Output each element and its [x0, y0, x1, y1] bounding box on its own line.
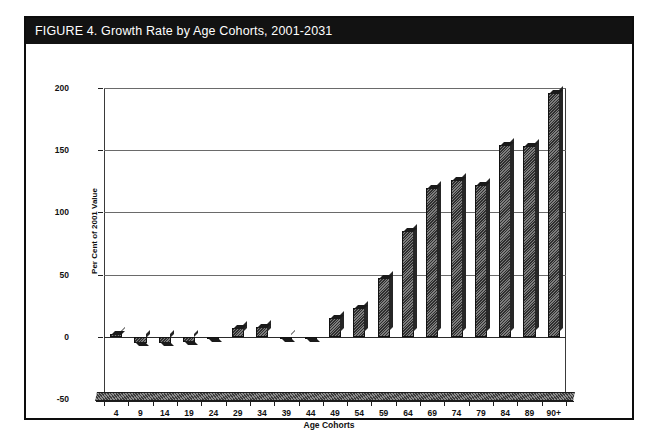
bar-14[interactable]	[159, 337, 171, 343]
bar-69[interactable]	[426, 188, 438, 337]
figure-screenshot: FIGURE 4. Growth Rate by Age Cohorts, 20…	[0, 0, 658, 443]
y-tick-label: 100	[39, 207, 69, 217]
y-tick-label: 0	[39, 332, 69, 342]
x-tick-mark	[493, 401, 494, 406]
x-tick-label: 59	[379, 408, 388, 418]
y-tick-label: 150	[39, 145, 69, 155]
y-tick-mark	[98, 150, 103, 151]
x-axis-title: Age Cohorts	[26, 420, 632, 430]
bar-9[interactable]	[134, 337, 146, 343]
figure-frame: FIGURE 4. Growth Rate by Age Cohorts, 20…	[24, 16, 634, 420]
x-tick-mark	[226, 401, 227, 406]
plot-left-axis	[104, 88, 105, 399]
x-tick-label: 4	[114, 408, 119, 418]
y-axis-title: Per Cent of 2001 Value	[90, 188, 99, 274]
x-tick-label: 54	[355, 408, 364, 418]
x-tick-label: 14	[160, 408, 169, 418]
plot-right-axis	[565, 88, 566, 399]
y-tick-mark	[98, 275, 103, 276]
x-tick-label: 19	[184, 408, 193, 418]
x-tick-mark	[201, 401, 202, 406]
bar-29[interactable]	[232, 328, 244, 337]
zero-baseline	[104, 337, 566, 338]
bar-84[interactable]	[499, 145, 511, 337]
bar-19[interactable]	[183, 337, 195, 342]
x-tick-mark	[566, 401, 567, 406]
bar-4[interactable]	[110, 334, 122, 336]
x-tick-label: 79	[476, 408, 485, 418]
x-tick-mark	[274, 401, 275, 406]
x-tick-mark	[420, 401, 421, 406]
x-tick-mark	[396, 401, 397, 406]
x-tick-mark	[153, 401, 154, 406]
x-tick-mark	[444, 401, 445, 406]
bar-44[interactable]	[305, 337, 317, 339]
x-tick-mark	[371, 401, 372, 406]
figure-title-bar: FIGURE 4. Growth Rate by Age Cohorts, 20…	[26, 18, 632, 44]
x-tick-label: 9	[138, 408, 143, 418]
bar-49[interactable]	[329, 318, 341, 337]
gridline-150	[104, 150, 566, 151]
y-tick-label: 200	[39, 83, 69, 93]
x-tick-label: 84	[500, 408, 509, 418]
gridline-50	[104, 275, 566, 276]
x-tick-mark	[347, 401, 348, 406]
x-tick-mark	[128, 401, 129, 406]
bar-59[interactable]	[378, 278, 390, 336]
x-tick-label: 44	[306, 408, 315, 418]
y-tick-mark	[98, 212, 103, 213]
x-tick-label: 90+	[547, 408, 561, 418]
x-tick-label: 74	[452, 408, 461, 418]
x-axis-line	[96, 401, 574, 402]
x-tick-label: 64	[403, 408, 412, 418]
x-tick-mark	[299, 401, 300, 406]
x-tick-label: 49	[330, 408, 339, 418]
figure-title: FIGURE 4. Growth Rate by Age Cohorts, 20…	[35, 24, 332, 38]
y-tick-mark	[98, 88, 103, 89]
bar-64[interactable]	[402, 231, 414, 337]
x-tick-mark	[177, 401, 178, 406]
bar-39[interactable]	[280, 337, 292, 339]
x-tick-mark	[250, 401, 251, 406]
bar-90+[interactable]	[548, 93, 560, 337]
bar-24[interactable]	[207, 337, 219, 339]
x-tick-label: 69	[428, 408, 437, 418]
bar-79[interactable]	[475, 185, 487, 337]
bar-74[interactable]	[451, 180, 463, 337]
plot-area: Per Cent of 2001 Value -50050100150200 4…	[26, 44, 632, 418]
x-tick-mark	[517, 401, 518, 406]
x-tick-mark	[104, 401, 105, 406]
plot-grid	[104, 88, 566, 399]
x-tick-label: 34	[257, 408, 266, 418]
gridline-200	[104, 88, 566, 89]
x-tick-mark	[469, 401, 470, 406]
x-tick-mark	[542, 401, 543, 406]
x-tick-label: 29	[233, 408, 242, 418]
x-tick-label: 89	[525, 408, 534, 418]
x-tick-label: 24	[209, 408, 218, 418]
bar-34[interactable]	[256, 327, 268, 337]
x-tick-mark	[323, 401, 324, 406]
plot-floor-slab	[95, 392, 575, 401]
bar-54[interactable]	[353, 308, 365, 337]
y-tick-label: -50	[39, 394, 69, 404]
bar-89[interactable]	[523, 146, 535, 336]
x-tick-label: 39	[282, 408, 291, 418]
y-tick-mark	[98, 337, 103, 338]
gridline-100	[104, 212, 566, 213]
y-tick-label: 50	[39, 270, 69, 280]
